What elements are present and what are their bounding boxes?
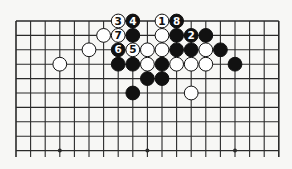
move-number-label: 2 bbox=[188, 29, 195, 41]
black-stone bbox=[126, 57, 140, 71]
stone-disc bbox=[126, 29, 140, 43]
black-stone bbox=[170, 43, 184, 57]
move-number-label: 8 bbox=[173, 15, 180, 27]
white-stone bbox=[141, 57, 155, 71]
stone-disc bbox=[97, 29, 111, 43]
black-stone bbox=[155, 72, 169, 86]
black-stone bbox=[155, 57, 169, 71]
black-stone: 4 bbox=[126, 14, 140, 28]
stone-disc bbox=[170, 57, 184, 71]
move-number-label: 4 bbox=[129, 15, 136, 27]
move-number-label: 6 bbox=[115, 43, 122, 55]
black-stone: 2 bbox=[184, 29, 198, 43]
black-stone bbox=[141, 72, 155, 86]
black-stone bbox=[228, 57, 242, 71]
white-stone: 1 bbox=[155, 14, 169, 28]
stone-disc bbox=[199, 57, 213, 71]
white-stone: 7 bbox=[111, 29, 125, 43]
stone-disc bbox=[155, 43, 169, 57]
move-number-label: 5 bbox=[129, 43, 136, 55]
white-stone bbox=[155, 29, 169, 43]
go-board: 34187265 bbox=[0, 0, 292, 169]
stone-disc bbox=[199, 43, 213, 57]
black-stone: 6 bbox=[111, 43, 125, 57]
black-stone bbox=[214, 43, 228, 57]
black-stone bbox=[126, 86, 140, 100]
stone-disc bbox=[184, 86, 198, 100]
white-stone bbox=[184, 57, 198, 71]
white-stone bbox=[53, 57, 67, 71]
white-stone bbox=[141, 43, 155, 57]
board-grid bbox=[16, 21, 279, 157]
white-stone bbox=[82, 43, 96, 57]
star-point bbox=[233, 149, 237, 153]
black-stone bbox=[170, 29, 184, 43]
stone-disc bbox=[141, 43, 155, 57]
black-stone bbox=[199, 29, 213, 43]
white-stone bbox=[199, 43, 213, 57]
stone-disc bbox=[82, 43, 96, 57]
stone-disc bbox=[155, 29, 169, 43]
stone-disc bbox=[170, 43, 184, 57]
white-stone bbox=[155, 43, 169, 57]
stone-disc bbox=[53, 57, 67, 71]
stone-disc bbox=[214, 43, 228, 57]
black-stone bbox=[184, 43, 198, 57]
stone-disc bbox=[155, 57, 169, 71]
white-stone bbox=[97, 29, 111, 43]
stone-disc bbox=[126, 86, 140, 100]
white-stone bbox=[184, 86, 198, 100]
stone-disc bbox=[111, 57, 125, 71]
white-stone bbox=[170, 57, 184, 71]
stone-disc bbox=[184, 43, 198, 57]
stone-disc bbox=[155, 72, 169, 86]
stone-disc bbox=[228, 57, 242, 71]
white-stone: 5 bbox=[126, 43, 140, 57]
white-stone: 3 bbox=[111, 14, 125, 28]
white-stone bbox=[199, 57, 213, 71]
stone-disc bbox=[141, 57, 155, 71]
star-point bbox=[58, 149, 62, 153]
black-stone: 8 bbox=[170, 14, 184, 28]
move-number-label: 1 bbox=[158, 15, 165, 27]
stone-disc bbox=[141, 72, 155, 86]
move-number-label: 7 bbox=[115, 29, 122, 41]
black-stone bbox=[126, 29, 140, 43]
star-point bbox=[145, 149, 149, 153]
stone-disc bbox=[199, 29, 213, 43]
black-stone bbox=[111, 57, 125, 71]
stone-disc bbox=[170, 29, 184, 43]
move-number-label: 3 bbox=[115, 15, 122, 27]
stone-disc bbox=[184, 57, 198, 71]
stone-disc bbox=[126, 57, 140, 71]
